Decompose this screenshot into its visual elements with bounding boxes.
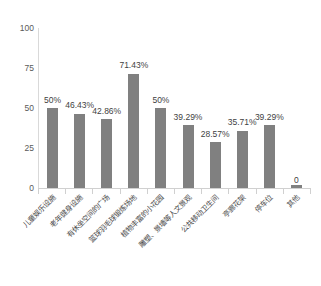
bar-value-label: 28.57% (201, 130, 230, 139)
bar-slot: 50% (39, 28, 66, 188)
x-axis-category-label: 停车位 (254, 194, 274, 214)
bar (47, 108, 58, 188)
bar (183, 125, 194, 188)
x-axis-tick (310, 188, 311, 194)
bar (74, 114, 85, 188)
x-axis-label-slot: 篮球羽毛球锻炼场地 (133, 194, 134, 195)
x-axis-category-label: 亭廊花架 (222, 194, 247, 219)
bar (291, 185, 302, 188)
bar-slot: 35.71% (229, 28, 256, 188)
bar-series: 50%46.43%42.86%71.43%50%39.29%28.57%35.7… (39, 28, 310, 188)
bar-value-label: 46.43% (65, 101, 94, 110)
bar (128, 74, 139, 188)
bar-slot: 50% (147, 28, 174, 188)
y-axis-tick-label: 75 (0, 64, 34, 73)
bar-slot: 28.57% (202, 28, 229, 188)
bar-value-label: 0 (294, 176, 299, 185)
bar-value-label: 50% (44, 96, 61, 105)
bar (155, 108, 166, 188)
x-axis-label-slot: 有休坐空间的广场 (106, 194, 107, 195)
bar-value-label: 39.29% (255, 113, 284, 122)
x-axis-label-slot: 公共移动卫生间 (215, 194, 216, 195)
y-axis-tick-label: 25 (0, 144, 34, 153)
y-axis-tick-labels: 0255075100 (0, 28, 34, 188)
x-axis-label-slot: 老年健身设施 (79, 194, 80, 195)
bar-chart: 0255075100 50%46.43%42.86%71.43%50%39.29… (0, 0, 321, 286)
x-axis-category-labels: 儿童娱乐设施老年健身设施有休坐空间的广场篮球羽毛球锻炼场地植物丰富的小花园雕塑、… (38, 194, 310, 286)
bar-slot: 0 (283, 28, 310, 188)
x-axis-label-slot: 亭廊花架 (242, 194, 243, 195)
bar-slot: 71.43% (120, 28, 147, 188)
bar-value-label: 39.29% (174, 113, 203, 122)
bar-value-label: 35.71% (228, 118, 257, 127)
bar-slot: 39.29% (256, 28, 283, 188)
bar-slot: 39.29% (174, 28, 201, 188)
bar-slot: 46.43% (66, 28, 93, 188)
bar-value-label: 42.86% (92, 107, 121, 116)
y-axis-tick-label: 50 (0, 104, 34, 113)
bar-value-label: 71.43% (119, 61, 148, 70)
bar (101, 119, 112, 188)
x-axis-label-slot: 停车位 (269, 194, 270, 195)
x-axis-label-slot: 植物丰富的小花园 (160, 194, 161, 195)
x-axis-label-slot: 其他 (296, 194, 297, 195)
bar (210, 142, 221, 188)
y-axis-tick-label: 100 (0, 24, 34, 33)
y-axis-tick-label: 0 (0, 184, 34, 193)
bar (237, 131, 248, 188)
bar (264, 125, 275, 188)
x-axis-category-label: 其他 (286, 194, 301, 209)
x-axis-label-slot: 雕塑、景墙等人文景观 (188, 194, 189, 195)
bar-slot: 42.86% (93, 28, 120, 188)
bar-value-label: 50% (152, 96, 169, 105)
x-axis-label-slot: 儿童娱乐设施 (52, 194, 53, 195)
